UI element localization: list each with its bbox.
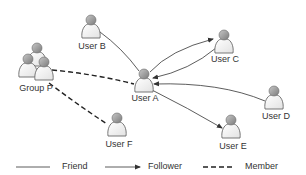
edge-member-p-f <box>49 83 107 124</box>
user-icon <box>135 69 153 92</box>
node-user-e[interactable] <box>222 115 240 138</box>
label-user-d: User D <box>262 111 290 121</box>
node-user-b[interactable] <box>82 15 100 38</box>
label-user-c: User C <box>211 54 239 64</box>
legend-friend-label: Friend <box>62 161 88 171</box>
legend-member-label: Member <box>245 161 278 171</box>
edge-follower-c-a <box>153 48 216 78</box>
user-icon <box>82 15 100 38</box>
label-user-b: User B <box>78 41 106 51</box>
node-group-p[interactable] <box>19 43 53 80</box>
user-icon <box>215 30 233 53</box>
edge-follower-a-c <box>150 39 213 72</box>
edge-follower-a-e <box>152 90 222 128</box>
edge-follower-d-a <box>154 84 265 101</box>
user-icon <box>265 86 283 109</box>
label-user-a: User A <box>131 93 158 103</box>
legend-follower-label: Follower <box>148 161 182 171</box>
edge-member-p-a <box>52 70 134 84</box>
label-user-f: User F <box>106 139 133 149</box>
node-user-c[interactable] <box>215 30 233 53</box>
node-user-f[interactable] <box>108 113 126 136</box>
label-group-p: Group P <box>19 83 53 93</box>
user-icon <box>108 113 126 136</box>
node-user-d[interactable] <box>265 86 283 109</box>
label-user-e: User E <box>219 141 247 151</box>
node-user-a[interactable] <box>135 69 153 92</box>
edge-friend-b-a <box>100 32 139 71</box>
user-icon <box>222 115 240 138</box>
